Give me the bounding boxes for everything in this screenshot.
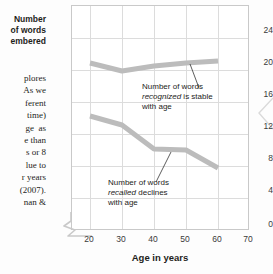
x-axis-title: Age in years xyxy=(71,252,249,263)
ytick-16: 16 xyxy=(253,89,273,99)
annotation-recognized: Number of wordsrecognized is stablewith … xyxy=(142,82,254,113)
ytick-8: 8 xyxy=(253,153,273,163)
xtick-60: 60 xyxy=(205,234,229,244)
xtick-20: 20 xyxy=(77,234,101,244)
annotation-recognized-emphasis: recognized xyxy=(142,92,181,101)
xtick-50: 50 xyxy=(173,234,197,244)
ytick-20: 20 xyxy=(253,57,273,67)
xtick-40: 40 xyxy=(141,234,165,244)
annotation-recalled: Number of wordsrecalled declineswith age xyxy=(108,178,216,209)
ytick-12: 12 xyxy=(253,121,273,131)
annotation-recognized-line1: Number of words xyxy=(142,82,203,91)
xtick-70: 70 xyxy=(236,234,260,244)
figure-caption-axis-label: Number of words embered xyxy=(0,14,46,47)
annotation-recognized-line3: with age xyxy=(142,102,172,111)
series-line-recalled xyxy=(90,116,218,168)
xtick-30: 30 xyxy=(109,234,133,244)
annotation-recalled-emphasis: recalled xyxy=(108,188,136,197)
line-chart: 24 20 16 12 8 4 0 20 30 40 50 60 70 Age … xyxy=(48,0,273,274)
book-body-text: plores As we ferent time) ge as e than s… xyxy=(0,72,46,208)
annotation-recalled-line1: Number of words xyxy=(108,178,169,187)
series-line-recognized xyxy=(90,61,218,71)
ytick-4: 4 xyxy=(253,185,273,195)
ytick-0: 0 xyxy=(253,219,273,229)
annotation-recalled-line2tail: declines xyxy=(136,188,168,197)
annotation-recalled-line3: with age xyxy=(108,198,138,207)
annotation-recognized-line2tail: is stable xyxy=(181,92,213,101)
book-text-column: Number of words embered plores As we fer… xyxy=(0,0,48,274)
ytick-24: 24 xyxy=(253,25,273,35)
textbook-page: Number of words embered plores As we fer… xyxy=(0,0,273,274)
